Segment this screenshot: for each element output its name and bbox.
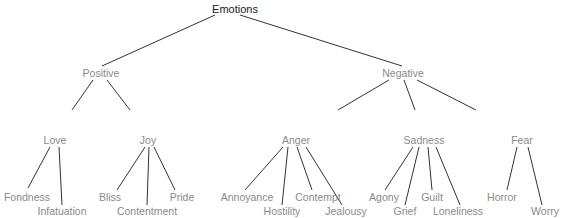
node-fondness: Fondness [4,191,50,203]
tree-edge [28,147,50,188]
node-joy: Joy [140,134,156,146]
tree-edge [404,80,415,110]
node-contempt: Contempt [295,191,341,203]
tree-edge [102,15,215,66]
node-grief: Grief [394,205,417,217]
tree-edge [240,15,402,66]
tree-edge [107,80,130,110]
tree-edge [428,147,432,190]
tree-edge [385,147,413,190]
tree-edge [417,80,476,110]
node-horror: Horror [487,191,517,203]
node-hostility: Hostility [264,205,301,217]
node-contentment: Contentment [117,205,177,217]
node-annoyance: Annoyance [221,191,274,203]
node-pride: Pride [170,191,195,203]
tree-edge [154,147,175,190]
tree-edge [338,80,389,110]
node-negative: Negative [382,67,423,79]
tree-edge [528,147,542,205]
node-positive: Positive [83,67,120,79]
tree-edge [147,147,149,205]
tree-edge [117,147,145,190]
node-bliss: Bliss [99,191,121,203]
node-jealousy: Jealousy [325,205,366,217]
node-love: Love [44,134,67,146]
node-worry: Worry [531,205,559,217]
node-loneliness: Loneliness [433,205,483,217]
tree-edge [282,147,288,205]
node-anger: Anger [282,134,310,146]
tree-edge [245,147,283,190]
tree-edge [72,80,93,110]
node-emotions: Emotions [212,3,258,15]
tree-edge [59,147,62,205]
emotions-tree-diagram: Emotions Positive Negative Love Joy Ange… [0,0,564,218]
node-agony: Agony [369,191,399,203]
node-infatuation: Infatuation [37,205,86,217]
tree-edge [507,147,517,190]
tree-edges [0,0,564,218]
node-guilt: Guilt [421,191,443,203]
node-fear: Fear [511,134,533,146]
node-sadness: Sadness [404,134,445,146]
